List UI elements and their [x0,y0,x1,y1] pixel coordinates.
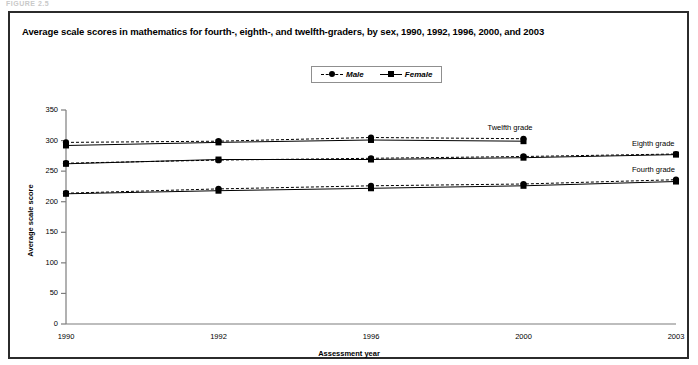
y-tick-label: 150 [28,227,58,236]
x-tick-label: 2000 [494,332,554,341]
series-annotation-label: Fourth grade [632,165,675,174]
x-tick-label: 1990 [36,332,96,341]
y-tick-label: 250 [28,166,58,175]
figure-caption: FIGURE 2.5 [6,0,49,7]
y-tick-label: 350 [28,105,58,114]
y-tick-label: 300 [28,136,58,145]
legend-label-male: Male [346,70,364,79]
legend-entry-female[interactable]: Female [380,70,433,79]
legend-entry-male[interactable]: Male [321,70,364,79]
series-annotation-label: Twelfth grade [488,123,533,132]
y-tick-label: 100 [28,258,58,267]
chart-title: Average scale scores in mathematics for … [22,26,544,37]
x-tick-label: 1992 [189,332,249,341]
y-tick-label: 200 [28,197,58,206]
series-annotation-label: Eighth grade [632,139,675,148]
x-tick-label: 1996 [341,332,401,341]
legend-label-female: Female [405,70,433,79]
male-line-marker-icon [321,70,343,79]
x-axis-title: Assessment year [0,349,698,358]
y-tick-label: 0 [28,319,58,328]
x-tick-label: 2003 [646,332,698,341]
female-line-marker-icon [380,70,402,79]
chart-legend: Male Female [311,66,442,83]
figure-frame [8,11,689,359]
y-tick-label: 50 [28,288,58,297]
